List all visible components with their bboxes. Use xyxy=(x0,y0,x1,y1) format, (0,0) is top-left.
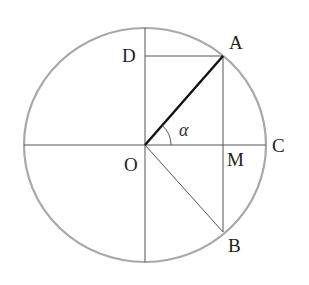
label-M: M xyxy=(227,149,244,170)
label-A: A xyxy=(229,32,243,53)
label-O: O xyxy=(124,154,138,175)
angle-arc xyxy=(162,125,171,145)
label-B: B xyxy=(228,235,241,256)
geometry-figure: A D C M O B α xyxy=(0,0,309,285)
radius-OB xyxy=(145,145,223,232)
label-alpha: α xyxy=(179,120,189,140)
label-D: D xyxy=(122,45,136,66)
diagram-canvas: A D C M O B α xyxy=(0,0,309,285)
label-C: C xyxy=(272,135,285,156)
